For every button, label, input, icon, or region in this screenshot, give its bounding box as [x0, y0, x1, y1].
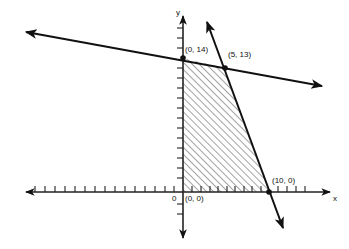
shaded-region — [183, 58, 269, 192]
x-axis-label: x — [333, 194, 337, 203]
y-axis-label: y — [176, 8, 180, 17]
point-label-0-0: (0, 0) — [185, 194, 204, 203]
point-label-10-0: (10, 0) — [272, 176, 295, 185]
point-label-5-13: (5, 13) — [228, 50, 251, 59]
point-label-0-14: (0, 14) — [185, 45, 208, 54]
constraint-line-shallow — [26, 32, 322, 86]
coordinate-plane-svg — [0, 0, 349, 249]
graph-figure: (0, 14) (5, 13) (10, 0) (0, 0) 0 x y — [0, 0, 349, 249]
vertex-dot-5-13 — [222, 65, 228, 71]
origin-label: 0 — [172, 194, 176, 203]
vertex-dot-0-14 — [180, 55, 186, 61]
vertex-dot-10-0 — [266, 189, 272, 195]
